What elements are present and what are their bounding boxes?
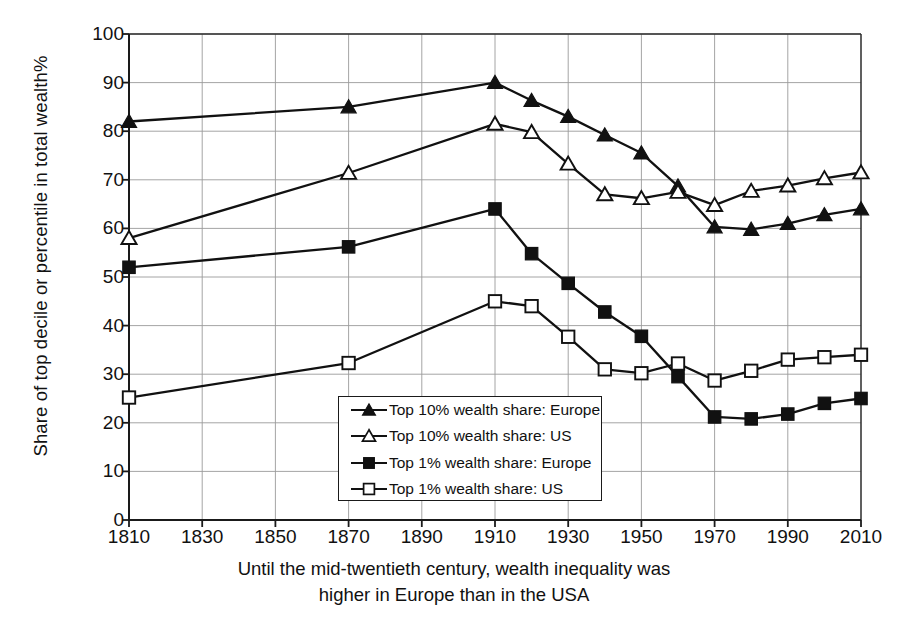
data-point-open-square: [599, 363, 611, 375]
data-point-filled-square: [818, 397, 830, 409]
legend-item: Top 1% wealth share: Europe: [339, 450, 601, 476]
data-point-filled-square: [599, 306, 611, 318]
data-point-open-square: [708, 374, 720, 386]
legend-item: Top 10% wealth share: Europe: [339, 397, 601, 423]
open-square-icon: [349, 479, 389, 499]
open-triangle-icon: [349, 426, 389, 446]
data-point-open-square: [562, 331, 574, 343]
data-point-filled-triangle: [487, 75, 502, 88]
caption-line-2: higher in Europe than in the USA: [0, 582, 908, 608]
data-point-filled-square: [525, 247, 537, 259]
data-point-filled-square: [562, 277, 574, 289]
chart-legend: Top 10% wealth share: EuropeTop 10% weal…: [338, 396, 602, 501]
data-point-filled-square: [123, 261, 135, 273]
data-point-open-triangle: [707, 198, 722, 211]
x-axis-caption: Until the mid-twentieth century, wealth …: [0, 556, 908, 608]
data-point-filled-triangle: [597, 128, 612, 141]
data-point-filled-square: [855, 392, 867, 404]
caption-line-1: Until the mid-twentieth century, wealth …: [0, 556, 908, 582]
data-point-open-square: [489, 295, 501, 307]
data-point-open-square: [342, 357, 354, 369]
data-point-filled-square: [745, 413, 757, 425]
data-point-open-triangle: [487, 117, 502, 130]
legend-item: Top 10% wealth share: US: [339, 423, 601, 449]
data-point-open-square: [635, 367, 647, 379]
data-point-open-square: [818, 351, 830, 363]
data-point-filled-triangle: [853, 202, 868, 215]
data-point-filled-triangle: [634, 146, 649, 159]
data-point-filled-triangle: [524, 93, 539, 106]
data-point-open-square: [672, 357, 684, 369]
data-point-open-square: [782, 353, 794, 365]
data-point-filled-square: [782, 408, 794, 420]
data-point-filled-square: [672, 370, 684, 382]
data-point-open-square: [855, 349, 867, 361]
legend-label: Top 10% wealth share: US: [389, 427, 572, 445]
legend-label: Top 1% wealth share: Europe: [389, 454, 591, 472]
plot-canvas: [0, 0, 908, 632]
data-point-filled-square: [489, 203, 501, 215]
data-point-filled-square: [635, 330, 647, 342]
filled-triangle-icon: [349, 400, 389, 420]
legend-label: Top 10% wealth share: Europe: [389, 401, 600, 419]
data-point-filled-square: [342, 241, 354, 253]
data-point-open-square: [745, 365, 757, 377]
chart-figure: Share of top decile or percentile in tot…: [0, 0, 908, 632]
legend-label: Top 1% wealth share: US: [389, 480, 563, 498]
data-point-open-square: [123, 391, 135, 403]
data-point-filled-square: [708, 411, 720, 423]
data-point-filled-triangle: [561, 109, 576, 122]
filled-square-icon: [349, 453, 389, 473]
legend-item: Top 1% wealth share: US: [339, 476, 601, 502]
data-point-open-triangle: [853, 165, 868, 178]
data-point-open-square: [525, 300, 537, 312]
